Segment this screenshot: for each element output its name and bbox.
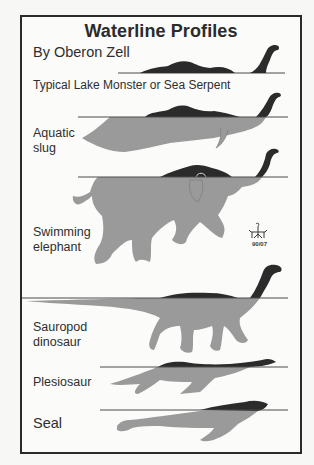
slug-silhouette xyxy=(78,93,288,152)
sauropod-silhouette xyxy=(22,265,288,353)
serpent-silhouette xyxy=(118,45,285,73)
profiles-illustration xyxy=(0,0,314,465)
signature-date: 90/07 xyxy=(252,241,267,247)
artist-signature-icon xyxy=(249,223,267,238)
plesiosaur-silhouette xyxy=(100,359,288,394)
seal-silhouette xyxy=(100,401,288,442)
